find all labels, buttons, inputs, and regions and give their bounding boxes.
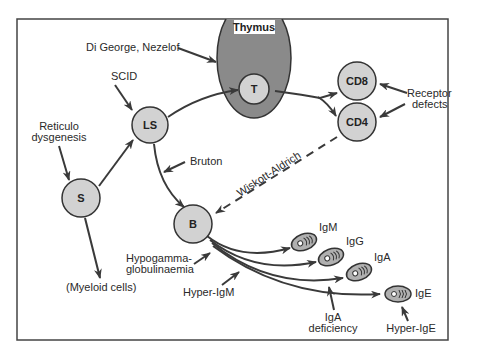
svg-text:LS: LS [143, 119, 157, 131]
svg-text:CD8: CD8 [346, 75, 368, 87]
label-hyper-igm: Hyper-IgM [183, 286, 234, 298]
plasma-cell-ige [385, 286, 411, 302]
label-digeorge: Di George, Nezelof [86, 41, 180, 53]
label-igg: IgG [346, 235, 364, 247]
label-receptor-2: defects [412, 98, 448, 110]
label-scid: SCID [111, 70, 137, 82]
thymus-label: Thymus [233, 21, 275, 33]
label-iga: IgA [374, 251, 391, 263]
label-reticulo-2: dysgenesis [31, 131, 87, 143]
label-iga-deficiency-2: deficiency [309, 322, 358, 334]
label-bruton: Bruton [190, 155, 222, 167]
node-cd4: CD4 [338, 103, 376, 141]
label-hyper-ige: Hyper-IgE [386, 322, 436, 334]
immunodeficiency-diagram: Thymus T LS S B CD8 CD4 [0, 0, 484, 357]
label-myeloid-cells: (Myeloid cells) [66, 281, 136, 293]
label-ige: IgE [415, 287, 432, 299]
svg-text:S: S [77, 192, 84, 204]
node-t: T [239, 74, 269, 104]
svg-text:CD4: CD4 [346, 116, 369, 128]
node-s: S [62, 179, 100, 217]
label-igm: IgM [319, 221, 337, 233]
node-cd8: CD8 [338, 62, 376, 100]
label-hypogamma-2: globulinaemia [126, 263, 195, 275]
node-b: B [174, 205, 212, 243]
node-ls: LS [132, 107, 168, 143]
svg-text:T: T [251, 83, 258, 95]
svg-text:B: B [189, 218, 197, 230]
